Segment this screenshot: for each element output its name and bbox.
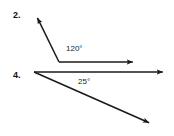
- figure-2-angle-measure-label: 120°: [66, 45, 83, 53]
- figure-4-number-label: 4.: [13, 71, 21, 80]
- figure-2-angle: [37, 18, 132, 62]
- figure-4-lower-right-ray: [34, 72, 149, 123]
- figure-2-number-label: 2.: [13, 11, 21, 20]
- figure-4-angle: [34, 72, 163, 123]
- angle-diagram-canvas: [0, 0, 174, 136]
- figure-4-angle-measure-label: 25°: [78, 78, 90, 86]
- figure-2-upper-left-ray: [37, 18, 59, 62]
